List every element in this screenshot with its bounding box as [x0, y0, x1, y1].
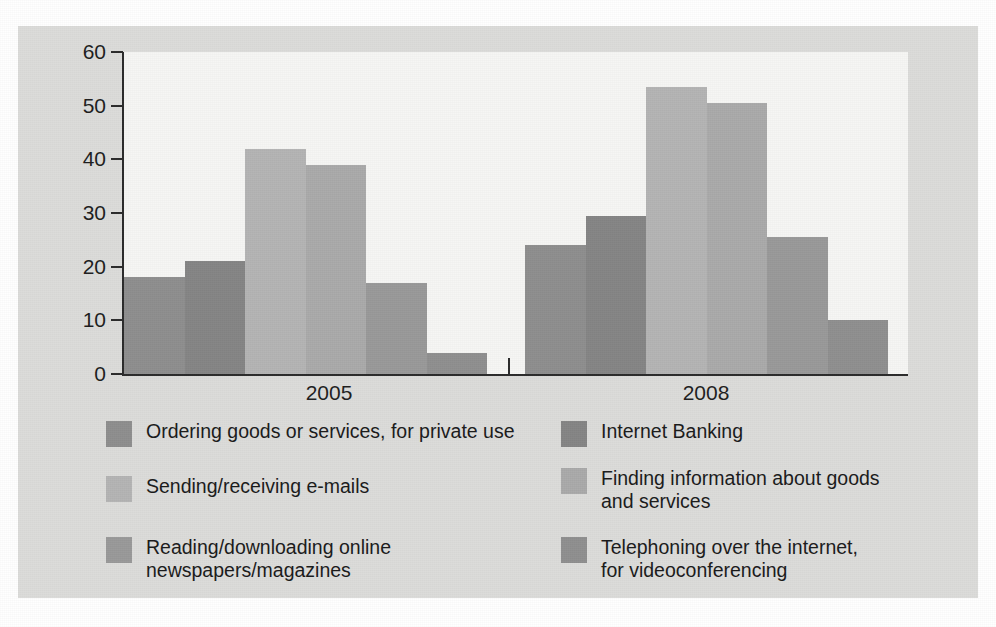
- legend-label: Ordering goods or services, for private …: [146, 420, 515, 443]
- y-axis-tick-label: 20: [60, 256, 106, 277]
- bar: [124, 277, 185, 374]
- chart-legend: Ordering goods or services, for private …: [106, 420, 966, 580]
- y-axis-tick-label: 30: [60, 202, 106, 223]
- legend-swatch-icon: [561, 421, 587, 447]
- bars-layer: [124, 52, 908, 374]
- x-axis-line: [122, 374, 908, 376]
- legend-item[interactable]: Reading/downloading online newspapers/ma…: [106, 536, 391, 582]
- x-axis-label-2008: 2008: [626, 381, 786, 405]
- legend-swatch-icon: [561, 468, 587, 494]
- y-axis-tick: [111, 158, 123, 160]
- bar: [366, 283, 427, 374]
- bar: [767, 237, 828, 374]
- bar: [245, 149, 306, 374]
- legend-swatch-icon: [106, 476, 132, 502]
- legend-item[interactable]: Telephoning over the internet, for video…: [561, 536, 858, 582]
- figure-root: 0102030405060 2005 2008 Ordering goods o…: [0, 0, 996, 627]
- x-axis-label-2005: 2005: [249, 381, 409, 405]
- y-axis-tick-label: 10: [60, 309, 106, 330]
- y-axis-labels: 0102030405060: [50, 0, 106, 627]
- y-axis-tick: [111, 319, 123, 321]
- y-axis-tick: [111, 51, 123, 53]
- legend-swatch-icon: [106, 537, 132, 563]
- bar: [828, 320, 889, 374]
- legend-label: Telephoning over the internet, for video…: [601, 536, 858, 582]
- legend-item[interactable]: Ordering goods or services, for private …: [106, 420, 515, 447]
- bar: [427, 353, 488, 374]
- legend-label: Sending/receiving e-mails: [146, 475, 369, 498]
- y-axis-tick-label: 60: [60, 41, 106, 62]
- y-axis-tick-label: 40: [60, 148, 106, 169]
- legend-label: Internet Banking: [601, 420, 743, 443]
- legend-label: Reading/downloading online newspapers/ma…: [146, 536, 391, 582]
- bar: [646, 87, 707, 374]
- bar: [707, 103, 768, 374]
- y-axis-tick: [111, 212, 123, 214]
- bar: [306, 165, 367, 374]
- y-axis-tick-label: 50: [60, 95, 106, 116]
- legend-item[interactable]: Internet Banking: [561, 420, 743, 447]
- y-axis-tick: [111, 105, 123, 107]
- bar: [185, 261, 246, 374]
- y-axis-tick-label: 0: [60, 363, 106, 384]
- y-axis-tick: [111, 373, 123, 375]
- legend-item[interactable]: Sending/receiving e-mails: [106, 475, 369, 502]
- legend-label: Finding information about goods and serv…: [601, 467, 880, 513]
- legend-swatch-icon: [561, 537, 587, 563]
- bar: [586, 216, 647, 374]
- bar: [525, 245, 586, 374]
- legend-item[interactable]: Finding information about goods and serv…: [561, 467, 880, 513]
- legend-swatch-icon: [106, 421, 132, 447]
- y-axis-tick: [111, 266, 123, 268]
